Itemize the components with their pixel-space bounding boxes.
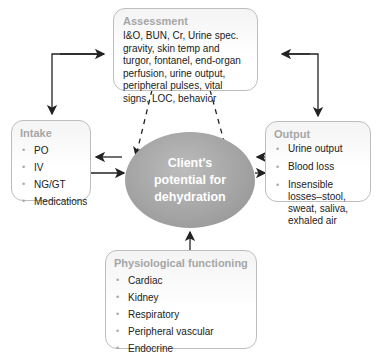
output-item: Urine output [274,143,362,155]
physiological-box: Physiological functioning Cardiac Kidney… [105,250,257,349]
intake-box: Intake PO IV NG/GT Medications [11,120,91,201]
output-item: Insensible losses–stool, sweat, saliva, … [274,179,362,227]
intake-item: NG/GT [20,176,82,193]
center-label: Client's potential for dehydration [144,155,236,206]
output-box: Output Urine output Blood loss Insensibl… [265,121,371,202]
output-title: Output [274,128,362,140]
output-item: Blood loss [274,161,362,173]
intake-item: PO [20,142,82,159]
assessment-title: Assessment [123,15,248,27]
assessment-body: I&O, BUN, Cr, Urine spec. gravity, skin … [123,30,248,105]
physiological-item: Respiratory [114,306,248,323]
physiological-item: Cardiac [114,272,248,289]
intake-title: Intake [20,127,82,139]
intake-item: Medications [20,193,82,210]
physiological-item: Kidney [114,289,248,306]
physiological-title: Physiological functioning [114,257,248,269]
center-ellipse: Client's potential for dehydration [125,132,255,228]
physiological-item: Endocrine [114,340,248,356]
intake-item: IV [20,159,82,176]
physiological-item: Peripheral vascular [114,323,248,340]
assessment-box: Assessment I&O, BUN, Cr, Urine spec. gra… [113,8,258,91]
